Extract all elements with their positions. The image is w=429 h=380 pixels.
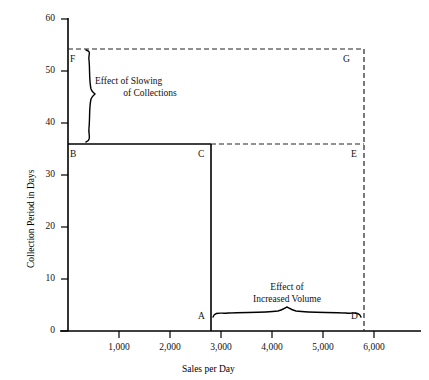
annotation-volume-line1: Effect of — [227, 282, 347, 294]
y-tick-label-10: 10 — [33, 274, 55, 284]
y-tick-label-60: 60 — [33, 14, 55, 24]
point-label-D: D — [351, 312, 358, 322]
x-tick-label-5000: 5,000 — [300, 343, 346, 353]
point-label-A: A — [198, 312, 205, 322]
slowing-brace — [86, 50, 95, 142]
point-label-C: C — [198, 150, 204, 160]
y-tick-label-0: 0 — [33, 326, 55, 336]
annotation-slowing-line2: of Collections — [95, 88, 205, 100]
x-tick-label-2000: 2,000 — [147, 343, 193, 353]
chart-plot-area — [0, 0, 429, 380]
point-label-E: E — [351, 150, 357, 160]
point-label-F: F — [70, 55, 75, 65]
x-tick-label-4000: 4,000 — [249, 343, 295, 353]
y-tick-label-50: 50 — [33, 66, 55, 76]
y-axis-ticks — [61, 19, 68, 331]
x-tick-label-3000: 3,000 — [198, 343, 244, 353]
x-tick-label-1000: 1,000 — [96, 343, 142, 353]
y-tick-label-20: 20 — [33, 222, 55, 232]
x-axis-ticks — [119, 331, 374, 338]
annotation-volume-line2: Increased Volume — [227, 294, 347, 306]
point-label-G: G — [343, 55, 350, 65]
point-label-B: B — [70, 150, 76, 160]
x-axis-title: Sales per Day — [182, 364, 235, 374]
volume-brace — [213, 307, 361, 317]
y-tick-label-40: 40 — [33, 118, 55, 128]
annotation-slowing-line1: Effect of Slowing — [95, 76, 215, 88]
y-tick-label-30: 30 — [33, 170, 55, 180]
x-tick-label-6000: 6,000 — [351, 343, 397, 353]
y-axis-title: Collection Period in Days — [26, 170, 36, 268]
